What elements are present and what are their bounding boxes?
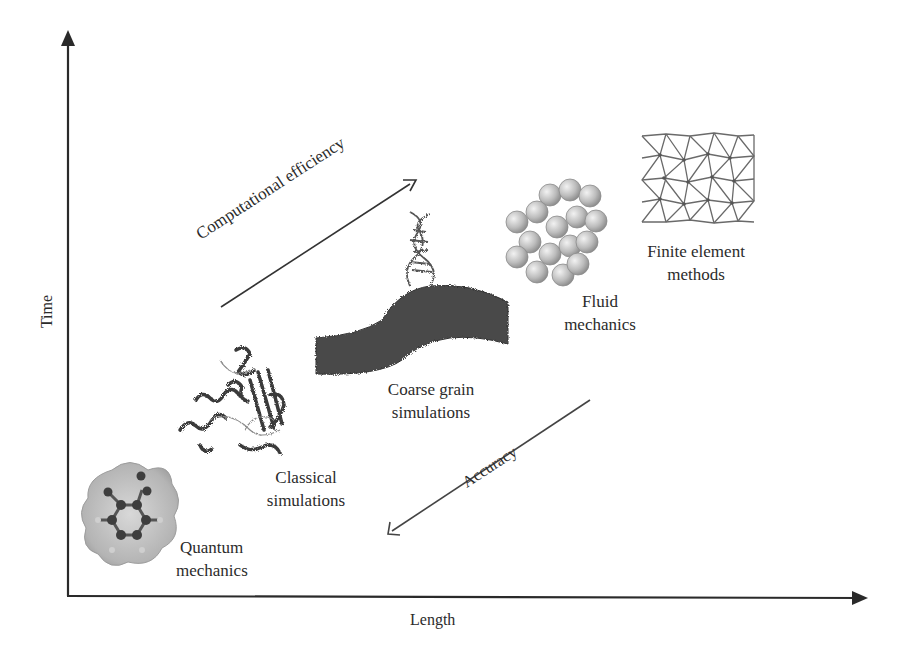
x-axis-label: Length <box>410 608 455 631</box>
fluid-label-line2: mechanics <box>555 313 645 336</box>
coarse-grain-simulations-label: Coarse grain simulations <box>376 378 486 424</box>
y-axis-arrowhead-icon <box>61 30 75 46</box>
finite-element-methods-label: Finite element methods <box>636 240 756 286</box>
coarse-label-line1: Coarse grain <box>376 378 486 401</box>
triangular-mesh-icon <box>642 133 754 223</box>
quantum-label-line2: mechanics <box>176 559 248 582</box>
classical-simulations-label: Classical simulations <box>256 466 356 512</box>
arrowhead-icon <box>403 180 416 191</box>
y-axis-label: Time <box>35 292 58 332</box>
x-axis-arrowhead-icon <box>852 591 868 605</box>
dna-membrane-icon <box>316 212 508 374</box>
arrowhead-icon <box>388 522 400 535</box>
quantum-mechanics-label: Quantum mechanics <box>176 536 248 582</box>
fem-label-line1: Finite element <box>636 240 756 263</box>
y-axis <box>61 30 75 596</box>
quantum-label-line1: Quantum <box>176 536 248 559</box>
fluid-mechanics-label: Fluid mechanics <box>555 290 645 336</box>
classical-label-line2: simulations <box>256 489 356 512</box>
coarse-label-line2: simulations <box>376 401 486 424</box>
protein-structure-icon <box>180 348 284 453</box>
particle-spheres-icon <box>506 179 607 286</box>
fem-label-line2: methods <box>636 263 756 286</box>
x-axis <box>67 591 868 605</box>
fluid-label-line1: Fluid <box>555 290 645 313</box>
benzene-molecule-icon <box>81 463 178 566</box>
classical-label-line1: Classical <box>256 466 356 489</box>
diagram-canvas <box>0 0 909 657</box>
